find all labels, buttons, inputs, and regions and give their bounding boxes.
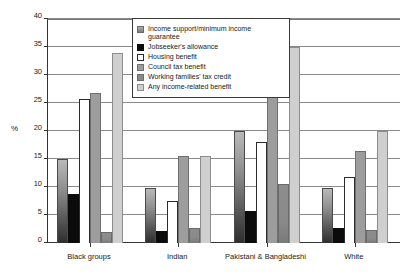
bar [68,194,79,243]
legend-item: Working families' tax credit [137,73,284,82]
bar [112,53,123,243]
y-axis-label: 25 [34,96,42,104]
white-swatch [137,54,144,61]
bar [322,188,333,243]
y-axis-label: 15 [34,152,42,160]
gradient-gray-swatch [137,26,144,33]
x-axis-tick [267,243,268,247]
legend-item: Any income-related benefit [137,83,284,92]
dark-gray-swatch [137,74,144,81]
y-axis-label: 35 [34,40,42,48]
chart-legend: Income support/minimum income guaranteeJ… [132,18,290,98]
y-axis-label: 30 [34,68,42,76]
y-axis-label: 10 [34,180,42,188]
y-axis-tick [44,158,48,159]
bar [377,131,388,243]
bar [101,232,112,243]
x-axis-tick [355,243,356,247]
black-swatch [137,44,144,51]
bar-group [322,20,388,243]
legend-item: Housing benefit [137,53,284,62]
x-axis-category-label: Pakistani & Bangladeshi [222,252,310,262]
bar [200,156,211,243]
legend-item: Income support/minimum income guarantee [137,25,284,42]
bar [178,156,189,243]
bar [344,177,355,243]
y-axis-label: 20 [34,124,42,132]
bar [267,81,278,243]
bar [234,131,245,243]
legend-item: Council tax benefit [137,63,284,72]
y-axis-tick [44,130,48,131]
bar [57,159,68,243]
y-axis-tick [44,214,48,215]
mid-gray-swatch [137,64,144,71]
bar [333,228,344,243]
bar [366,230,377,243]
bar [245,211,256,243]
bar [156,231,167,243]
y-axis-tick [44,102,48,103]
bar [256,142,267,243]
bar-group [57,20,123,243]
x-axis-tick [90,243,91,247]
y-axis-tick [44,18,48,19]
x-axis-category-label: Indian [133,252,221,262]
x-axis-tick [178,243,179,247]
legend-item: Jobseeker's allowance [137,43,284,52]
bar-chart: % 0510152025303540 Income support/minimu… [0,0,416,280]
y-axis-title: % [11,124,18,133]
legend-item-label: Housing benefit [148,53,197,62]
legend-item-label: Any income-related benefit [148,83,231,92]
y-axis-label: 0 [38,236,42,244]
x-axis-category-label: White [310,252,398,262]
bar [289,47,300,243]
legend-item-label: Jobseeker's allowance [148,43,218,52]
y-axis-label: 40 [34,12,42,20]
bar [355,151,366,243]
legend-item-label: Income support/minimum income guarantee [148,25,284,42]
y-axis-tick [44,46,48,47]
y-axis-tick [44,242,48,243]
y-axis-tick [44,74,48,75]
y-axis-tick [44,186,48,187]
legend-item-label: Working families' tax credit [148,73,231,82]
light-gray-swatch [137,84,144,91]
legend-item-label: Council tax benefit [148,63,206,72]
bar [278,184,289,243]
bar [79,99,90,243]
x-axis-category-label: Black groups [45,252,133,262]
bar [167,201,178,243]
bar [90,93,101,243]
bar [145,188,156,243]
y-axis-label: 5 [38,208,42,216]
bar [189,228,200,243]
